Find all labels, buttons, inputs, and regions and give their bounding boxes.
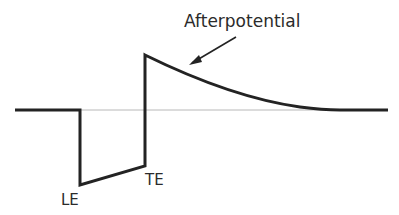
te-label: TE (144, 171, 164, 189)
waveform (15, 55, 388, 185)
le-label: LE (61, 191, 79, 209)
afterpotential-arrow-head-icon (189, 55, 202, 65)
afterpotential-label: Afterpotential (184, 11, 300, 31)
afterpotential-diagram: Afterpotential LE TE (0, 0, 399, 215)
